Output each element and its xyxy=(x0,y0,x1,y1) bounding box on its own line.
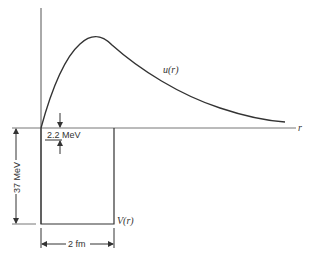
potential-label: V(r) xyxy=(117,215,134,227)
deuteron-potential-diagram: r u(r) V(r) 2.2 MeV 37 MeV 2 fm xyxy=(0,0,311,262)
binding-energy-label: 2.2 MeV xyxy=(47,130,81,140)
potential-well xyxy=(41,128,114,224)
r-axis-label: r xyxy=(298,122,302,133)
well-width-label: 2 fm xyxy=(68,239,86,249)
wavefunction-label: u(r) xyxy=(163,64,179,76)
wavefunction-curve xyxy=(41,37,285,128)
well-depth-label: 37 MeV xyxy=(12,162,22,193)
